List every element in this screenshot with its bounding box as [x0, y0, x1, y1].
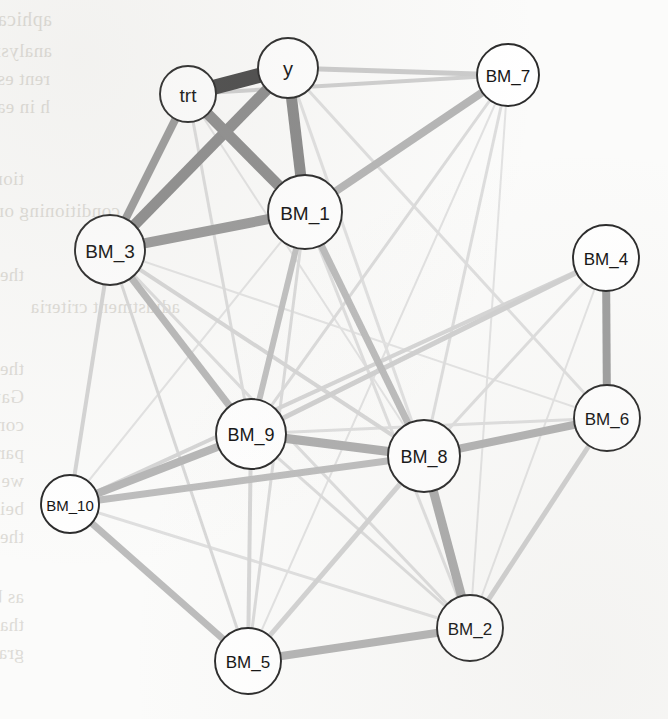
node-label: trt	[180, 85, 198, 106]
network-graph: trtyBM_7BM_1BM_3BM_4BM_6BM_9BM_8BM_10BM_…	[0, 0, 668, 719]
node-label: BM_8	[400, 447, 447, 468]
graph-node-BM_5[interactable]: BM_5	[215, 628, 281, 694]
graph-edge	[288, 68, 508, 75]
node-label: BM_7	[486, 67, 530, 86]
node-label: BM_9	[227, 425, 274, 446]
node-label: BM_6	[585, 410, 629, 429]
node-label: BM_1	[280, 203, 330, 225]
graph-edge	[251, 258, 606, 434]
graph-node-BM_7[interactable]: BM_7	[477, 44, 539, 106]
graph-node-y[interactable]: y	[258, 38, 318, 98]
graph-node-BM_8[interactable]: BM_8	[388, 420, 460, 492]
graph-node-BM_10[interactable]: BM_10	[41, 475, 99, 533]
node-layer: trtyBM_7BM_1BM_3BM_4BM_6BM_9BM_8BM_10BM_…	[41, 38, 640, 694]
node-label: y	[283, 58, 293, 80]
node-label: BM_10	[46, 497, 94, 514]
node-label: BM_2	[448, 620, 492, 639]
graph-edge	[70, 250, 110, 504]
graph-node-BM_1[interactable]: BM_1	[268, 175, 342, 249]
graph-node-BM_2[interactable]: BM_2	[437, 595, 503, 661]
graph-edge	[470, 418, 607, 628]
graph-node-BM_9[interactable]: BM_9	[216, 399, 286, 469]
graph-node-BM_3[interactable]: BM_3	[75, 215, 145, 285]
node-label: BM_4	[584, 250, 628, 269]
node-label: BM_5	[226, 653, 270, 672]
edge-layer	[70, 68, 607, 661]
graph-node-BM_6[interactable]: BM_6	[574, 385, 640, 451]
graph-edge	[288, 68, 424, 456]
graph-node-BM_4[interactable]: BM_4	[573, 225, 639, 291]
graph-node-trt[interactable]: trt	[160, 66, 216, 122]
node-label: BM_3	[85, 241, 135, 263]
figure-canvas: aphical Models for Backdoor Graphsanalys…	[0, 0, 668, 719]
